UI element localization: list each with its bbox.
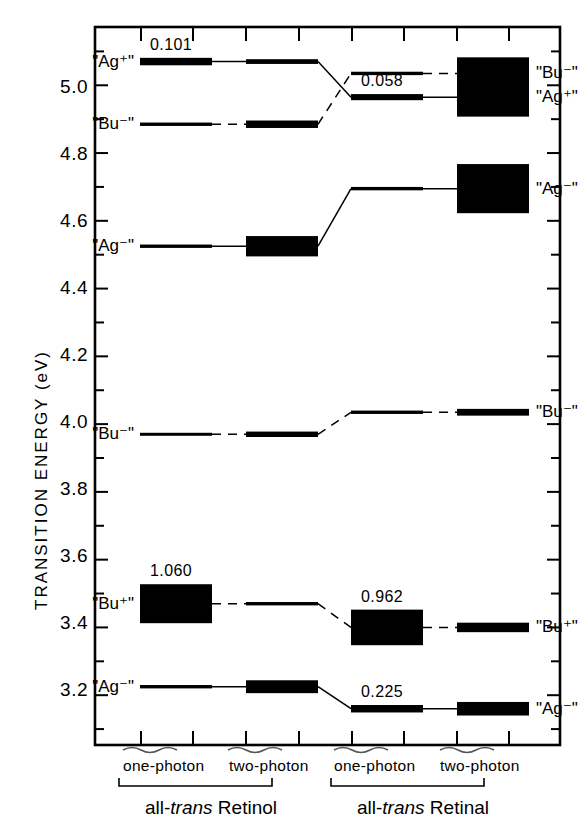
level-bar-0-0 [140,58,212,65]
plot-axes [95,27,560,745]
state-label-left-2: "Ag⁻" [92,235,134,256]
level-bar-1-3 [457,57,529,89]
level-bar-5-3 [457,702,529,716]
level-connector [318,687,351,709]
state-label-right-5: "Ag⁻" [536,698,578,719]
column-squiggles [123,748,494,753]
level-bar-5-0 [140,685,212,688]
state-label-left-3: "Bu⁻" [92,423,134,444]
level-bar-4-3 [457,623,529,632]
level-connector [318,412,351,434]
figure-container: TRANSITION ENERGY (eV) 5.0 4.8 4.6 4.4 4… [0,0,579,825]
level-bar-5-1 [246,680,318,693]
level-bar-2-1 [246,236,318,256]
state-label-left-5: "Ag⁻" [92,676,134,697]
state-label-right-3: "Bu⁻" [536,401,578,422]
level-bar-3-1 [246,432,318,437]
level-connector [318,189,351,247]
level-connector [318,73,351,124]
level-bar-1-1 [246,121,318,128]
state-label-left-0: "Ag⁺" [92,51,134,72]
level-bar-2-3 [457,164,529,213]
x-axis-ticks [141,27,509,745]
state-label-left-1: "Bu⁻" [92,113,134,134]
oscillator-strength-5-2: 0.225 [361,683,403,701]
level-bar-3-2 [351,411,423,414]
group-brackets [119,778,484,786]
state-label-right-4: "Bu⁺" [536,616,578,637]
oscillator-strength-0-0: 0.101 [150,36,192,54]
state-label-right-1: "Bu⁻" [536,62,578,83]
level-bar-2-0 [140,245,212,248]
level-bar-3-0 [140,433,212,436]
level-bar-0-1 [246,59,318,64]
level-bar-1-0 [140,123,212,126]
level-bar-5-2 [351,705,423,712]
level-bar-2-2 [351,187,423,190]
level-bar-4-1 [246,602,318,605]
energy-level-diagram [0,0,579,825]
levels-layer [140,57,529,715]
oscillator-strength-0-2: 0.058 [361,72,403,90]
state-label-right-2: "Ag⁻" [536,178,578,199]
level-bar-0-2 [351,94,423,100]
level-bar-4-0 [140,584,212,623]
oscillator-strength-4-2: 0.962 [361,588,403,606]
level-bar-4-2 [351,610,423,646]
level-connector [318,62,351,98]
state-label-left-4: "Bu⁺" [92,593,134,614]
oscillator-strength-4-0: 1.060 [150,562,192,580]
level-bar-3-3 [457,409,529,416]
state-label-right-0: "Ag⁺" [536,86,578,107]
level-connector [318,604,351,628]
